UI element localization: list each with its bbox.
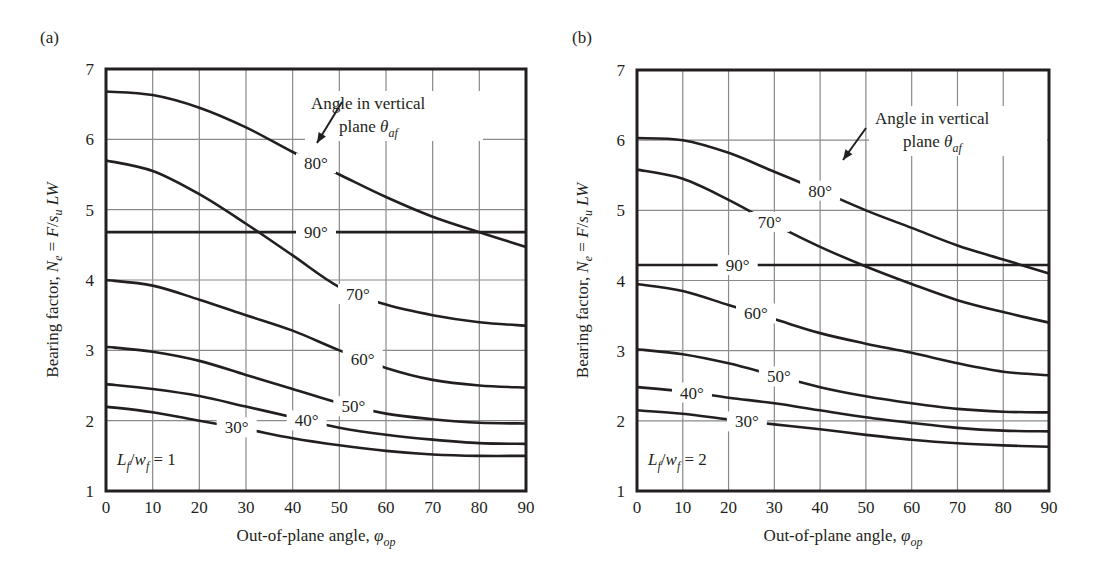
x-axis-title: Out-of-plane angle, φop bbox=[237, 526, 396, 549]
curve-label: 40° bbox=[680, 384, 704, 403]
curve-label: 70° bbox=[346, 285, 370, 304]
x-tick-label: 40 bbox=[284, 498, 301, 517]
y-axis-title: Bearing factor, Ne = F/su LW bbox=[43, 181, 65, 378]
curve-label: 40° bbox=[295, 411, 319, 430]
y-tick-label: 3 bbox=[617, 342, 626, 361]
curve-label: 60° bbox=[744, 304, 768, 323]
chart-panel-a: (a)30°40°50°60°70°80°90°0102030405060708… bbox=[40, 28, 535, 549]
curve-label: 50° bbox=[341, 397, 365, 416]
curve-label: 70° bbox=[758, 213, 782, 232]
y-tick-label: 6 bbox=[86, 130, 95, 149]
x-tick-label: 90 bbox=[518, 498, 535, 517]
y-tick-label: 4 bbox=[86, 271, 95, 290]
y-tick-label: 1 bbox=[617, 482, 626, 501]
x-tick-label: 90 bbox=[1041, 498, 1058, 517]
x-tick-label: 50 bbox=[331, 498, 348, 517]
x-tick-label: 10 bbox=[144, 498, 161, 517]
x-tick-label: 60 bbox=[378, 498, 395, 517]
x-tick-label: 20 bbox=[720, 498, 737, 517]
y-tick-label: 4 bbox=[617, 272, 626, 291]
curve-70deg bbox=[106, 160, 526, 325]
curve-label: 50° bbox=[767, 367, 791, 386]
y-tick-label: 5 bbox=[617, 201, 626, 220]
y-tick-label: 1 bbox=[86, 482, 95, 501]
x-tick-label: 80 bbox=[471, 498, 488, 517]
panel-label: (a) bbox=[40, 28, 59, 47]
curve-label: 30° bbox=[735, 412, 759, 431]
y-tick-label: 7 bbox=[86, 60, 95, 79]
x-tick-label: 70 bbox=[949, 498, 966, 517]
curve-60deg bbox=[637, 284, 1049, 375]
x-tick-label: 50 bbox=[857, 498, 874, 517]
curve-label: 80° bbox=[304, 154, 328, 173]
curve-60deg bbox=[106, 280, 526, 388]
arrowhead-icon bbox=[843, 149, 852, 160]
annotation-line1: Angle in vertical bbox=[875, 109, 990, 128]
parameter-label: Lf/wf = 2 bbox=[647, 450, 707, 473]
curve-label: 90° bbox=[726, 256, 750, 275]
y-tick-label: 3 bbox=[86, 341, 95, 360]
curve-label: 30° bbox=[225, 418, 249, 437]
figure-canvas: (a)30°40°50°60°70°80°90°0102030405060708… bbox=[0, 0, 1104, 587]
x-tick-label: 10 bbox=[674, 498, 691, 517]
x-tick-label: 80 bbox=[995, 498, 1012, 517]
curve-label: 80° bbox=[808, 182, 832, 201]
panel-label: (b) bbox=[572, 28, 592, 47]
y-tick-label: 7 bbox=[617, 61, 626, 80]
curve-label: 90° bbox=[304, 223, 328, 242]
y-tick-label: 6 bbox=[617, 131, 626, 150]
x-tick-label: 0 bbox=[102, 498, 111, 517]
annotation-line1: Angle in vertical bbox=[311, 94, 426, 113]
x-tick-label: 40 bbox=[812, 498, 829, 517]
x-tick-label: 0 bbox=[633, 498, 642, 517]
curve-30deg bbox=[637, 410, 1049, 446]
x-tick-label: 60 bbox=[903, 498, 920, 517]
x-tick-label: 30 bbox=[238, 498, 255, 517]
y-tick-label: 5 bbox=[86, 201, 95, 220]
curve-label: 60° bbox=[351, 350, 375, 369]
curves: 30°40°50°60°70°80°90° bbox=[106, 92, 526, 456]
curves: 30°40°50°60°70°80°90° bbox=[637, 138, 1049, 447]
y-tick-label: 2 bbox=[86, 412, 95, 431]
parameter-label: Lf/wf = 1 bbox=[116, 450, 176, 473]
curve-50deg bbox=[637, 349, 1049, 412]
chart-panel-b: (b)30°40°50°60°70°80°90°0102030405060708… bbox=[572, 28, 1058, 549]
x-tick-label: 30 bbox=[766, 498, 783, 517]
y-tick-label: 2 bbox=[617, 412, 626, 431]
curve-70deg bbox=[637, 170, 1049, 323]
x-tick-label: 70 bbox=[424, 498, 441, 517]
x-axis-title: Out-of-plane angle, φop bbox=[764, 526, 923, 549]
x-tick-label: 20 bbox=[191, 498, 208, 517]
y-axis-title: Bearing factor, Ne = F/su LW bbox=[573, 181, 595, 378]
